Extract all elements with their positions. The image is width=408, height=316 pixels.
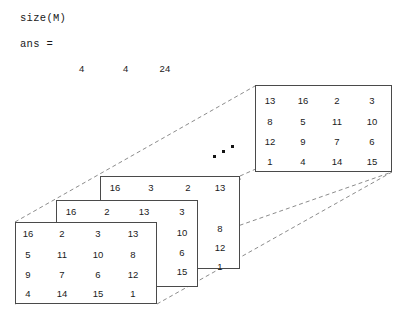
cell-front-r2c2: 6: [89, 270, 107, 280]
cell-front-r1c1: 11: [53, 250, 71, 260]
cell-back-r2c2: 7: [328, 137, 346, 147]
cell-back-r1c1: 5: [294, 117, 312, 127]
cell-front-r1c3: 8: [124, 250, 142, 260]
cell-back-r0c0: 13: [261, 96, 279, 106]
cell-front-r3c0: 4: [19, 289, 37, 299]
cell-back-r0c2: 2: [328, 96, 346, 106]
cell-second-right-r3: 15: [173, 267, 191, 277]
cell-second-top-c0: 16: [62, 207, 80, 217]
cell-front-r2c3: 12: [124, 270, 142, 280]
cell-third-right-r2: 12: [211, 243, 229, 253]
cell-second-top-c1: 2: [98, 207, 116, 217]
cell-third-top-c1: 3: [142, 183, 160, 193]
dot-2: [222, 150, 225, 153]
cell-third-top-c3: 13: [211, 183, 229, 193]
cell-back-r1c2: 11: [328, 117, 346, 127]
cell-back-r3c0: 1: [261, 157, 279, 167]
cell-front-r3c2: 15: [89, 289, 107, 299]
cell-back-r1c3: 10: [363, 117, 381, 127]
cell-second-right-r0: 3: [173, 207, 191, 217]
cell-second-right-r1: 10: [173, 228, 191, 238]
cell-front-r0c2: 3: [89, 229, 107, 239]
cell-second-right-r2: 6: [173, 248, 191, 258]
cell-third-top-c0: 16: [106, 183, 124, 193]
matrix-layer-front: 16231351110897612414151: [15, 222, 157, 304]
cell-front-r0c0: 16: [19, 229, 37, 239]
cell-third-right-r1: 8: [211, 224, 229, 234]
dot-3: [231, 145, 234, 148]
cell-back-r0c1: 16: [294, 96, 312, 106]
cell-back-r2c1: 9: [294, 137, 312, 147]
cell-front-r3c1: 14: [53, 289, 71, 299]
cell-back-r3c1: 4: [294, 157, 312, 167]
cell-third-top-c2: 2: [179, 183, 197, 193]
matrix-layer-back: 13162385111012976141415: [255, 85, 392, 172]
cell-back-r0c3: 3: [363, 96, 381, 106]
cell-front-r2c0: 9: [19, 270, 37, 280]
cell-second-top-c2: 13: [135, 207, 153, 217]
cell-back-r2c0: 12: [261, 137, 279, 147]
cell-front-r1c2: 10: [89, 250, 107, 260]
dot-1: [213, 155, 216, 158]
cell-front-r3c3: 1: [124, 289, 142, 299]
cell-front-r0c1: 2: [53, 229, 71, 239]
cell-back-r2c3: 6: [363, 137, 381, 147]
cell-third-right-r3: 1: [211, 262, 229, 272]
cell-front-r1c0: 5: [19, 250, 37, 260]
cell-back-r3c2: 14: [328, 157, 346, 167]
cell-back-r3c3: 15: [363, 157, 381, 167]
cell-front-r0c3: 13: [124, 229, 142, 239]
cell-front-r2c1: 7: [53, 270, 71, 280]
figure-canvas: size(M) ans = 4424 131623851110129761414…: [0, 0, 408, 316]
cell-back-r1c0: 8: [261, 117, 279, 127]
